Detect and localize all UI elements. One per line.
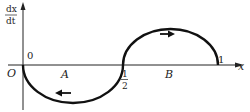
origin-label: O (7, 67, 16, 80)
region-label-a: A (60, 68, 69, 81)
arrow-right-icon (160, 31, 175, 38)
y-label-denominator: dt (6, 16, 16, 26)
y-label-numerator: dx (6, 4, 17, 14)
x-axis-label: x (238, 60, 245, 73)
curve-lower-semicircle (23, 65, 123, 103)
arrow-left-icon (55, 90, 71, 97)
tick-label-one: 1 (218, 54, 224, 65)
tick-label-zero: 0 (27, 50, 33, 61)
region-label-b: B (164, 68, 173, 81)
tick-label-half-numerator: 1 (122, 69, 128, 79)
phase-diagram: dx dt x O 0 1 2 1 A B (0, 0, 250, 112)
y-axis-arrow-icon (21, 2, 26, 10)
tick-label-half-denominator: 2 (122, 81, 128, 91)
